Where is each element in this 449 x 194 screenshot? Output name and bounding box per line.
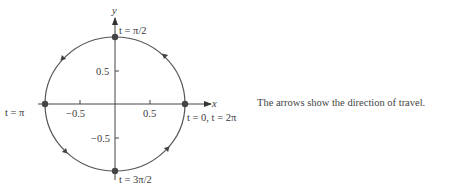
point-bottom bbox=[112, 168, 118, 174]
x-tick-label-pos: 0.5 bbox=[143, 108, 156, 119]
label-right: t = 0, t = 2π bbox=[187, 112, 237, 123]
y-tick-label-neg: −0.5 bbox=[91, 133, 110, 144]
caption: The arrows show the direction of travel. bbox=[257, 97, 425, 108]
label-top: t = π/2 bbox=[119, 25, 147, 36]
label-left: t = π bbox=[5, 107, 25, 118]
y-axis-label: y bbox=[111, 5, 117, 16]
y-tick-label-pos: 0.5 bbox=[96, 66, 109, 77]
direction-arrow-icon bbox=[160, 51, 168, 59]
point-left bbox=[42, 101, 48, 107]
label-bottom: t = 3π/2 bbox=[119, 174, 152, 185]
point-right bbox=[182, 101, 188, 107]
direction-arrow-icon bbox=[58, 55, 66, 63]
point-top bbox=[112, 34, 118, 40]
x-tick-label-neg: −0.5 bbox=[66, 108, 85, 119]
x-axis-label: x bbox=[211, 98, 217, 109]
